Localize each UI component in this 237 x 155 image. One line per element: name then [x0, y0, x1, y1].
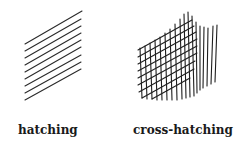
hatching-label: hatching	[18, 123, 78, 137]
cross-hatching-illustration	[138, 12, 217, 100]
hatching-illustration	[25, 11, 82, 100]
cross-hatching-label: cross-hatching	[133, 123, 233, 137]
